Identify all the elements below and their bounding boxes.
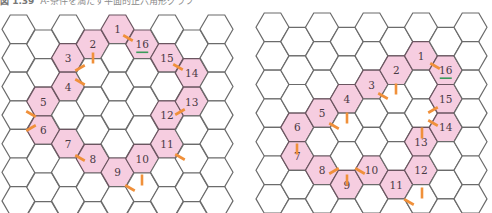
hex-grid-right: 12345678910111213141516 bbox=[0, 0, 492, 213]
cell-label: 16 bbox=[439, 64, 453, 76]
cell-label: 4 bbox=[343, 93, 350, 105]
cell-label: 8 bbox=[319, 164, 326, 176]
cell-label: 6 bbox=[294, 121, 301, 133]
cell-label: 1 bbox=[418, 50, 425, 62]
cell-label: 5 bbox=[319, 107, 326, 119]
cell-label: 12 bbox=[414, 164, 427, 176]
cell-label: 10 bbox=[365, 164, 378, 176]
cell-label: 11 bbox=[390, 179, 403, 191]
cell-label: 14 bbox=[439, 121, 453, 133]
cell-label: 2 bbox=[393, 64, 400, 76]
cell-label: 3 bbox=[368, 79, 375, 91]
cell-label: 15 bbox=[439, 93, 452, 105]
